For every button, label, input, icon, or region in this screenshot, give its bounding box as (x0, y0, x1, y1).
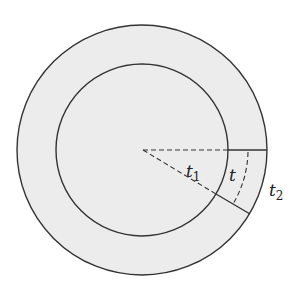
annulus-diagram: t1 t t2 (0, 0, 302, 294)
label-t2: t2 (269, 180, 283, 203)
label-t: t (229, 165, 236, 185)
